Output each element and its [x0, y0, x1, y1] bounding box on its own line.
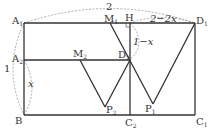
- measure-h-d2: 1−x: [133, 36, 154, 47]
- label-a2: A2: [11, 53, 23, 65]
- label-a1: A1: [11, 15, 23, 27]
- measure-left-inner: x: [28, 78, 34, 89]
- geometry-diagram: A1 A2 B M1 H D1 D2 M2 P1 P2 C1 C2 2 1 x …: [0, 0, 208, 130]
- label-m2: M2: [73, 48, 87, 60]
- line-p1-d1: [153, 23, 195, 104]
- label-m1: M1: [104, 13, 118, 25]
- label-c2: C2: [125, 117, 137, 129]
- measure-left: 1: [4, 63, 10, 74]
- label-p2: P2: [106, 104, 117, 116]
- measure-top: 2: [106, 1, 112, 12]
- label-h: H: [125, 12, 134, 23]
- label-c1: C1: [196, 116, 207, 128]
- arc-a1-b: [13, 23, 24, 115]
- label-b: B: [15, 115, 22, 126]
- measure-h-d1: 2−2x: [149, 13, 177, 24]
- label-p1: P1: [145, 103, 156, 115]
- line-m2-p2: [80, 60, 105, 107]
- line-p2-d2: [105, 60, 130, 107]
- label-d2: D2: [118, 49, 130, 61]
- label-d1: D1: [196, 15, 208, 27]
